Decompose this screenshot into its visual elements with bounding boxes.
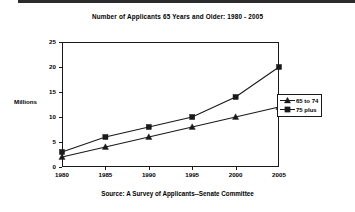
data-series <box>59 64 281 154</box>
y-tick-label: 0 <box>40 164 56 170</box>
legend-label: 65 to 74 <box>295 98 318 104</box>
chart-page: Number of Applicants 65 Years and Older:… <box>0 0 355 212</box>
y-tick-mark <box>59 167 62 168</box>
data-point-marker <box>59 149 64 154</box>
legend-label: 75 plus <box>295 107 317 113</box>
series-line <box>62 67 279 152</box>
scan-edge-bar <box>18 0 355 3</box>
y-tick-label: 5 <box>40 139 56 145</box>
data-point-marker <box>190 114 195 119</box>
y-tick-label: 20 <box>40 64 56 70</box>
square-marker-icon <box>280 106 295 114</box>
series-layer <box>62 42 279 167</box>
y-tick-label: 15 <box>40 89 56 95</box>
x-tick-label: 2005 <box>264 172 294 178</box>
x-tick-label: 1995 <box>177 172 207 178</box>
x-tick-label: 1985 <box>90 172 120 178</box>
y-axis-title: Millions <box>14 98 37 105</box>
y-tick-label: 10 <box>40 114 56 120</box>
data-point-marker <box>103 134 108 139</box>
series-line <box>62 107 279 157</box>
source-note: Source: A Survey of Applicants--Senate C… <box>0 190 355 197</box>
chart-legend: 65 to 7475 plus <box>277 94 322 117</box>
chart-title: Number of Applicants 65 Years and Older:… <box>0 13 355 20</box>
legend-item: 65 to 74 <box>280 96 318 105</box>
data-point-marker <box>276 64 281 69</box>
plot-area <box>62 42 279 167</box>
y-tick-label: 25 <box>40 39 56 45</box>
legend-item: 75 plus <box>280 105 318 114</box>
triangle-marker-icon <box>280 97 295 105</box>
data-point-marker <box>233 94 238 99</box>
x-tick-label: 1980 <box>47 172 77 178</box>
data-point-marker <box>146 124 151 129</box>
x-tick-label: 2000 <box>221 172 251 178</box>
data-series <box>59 104 282 160</box>
x-tick-label: 1990 <box>134 172 164 178</box>
